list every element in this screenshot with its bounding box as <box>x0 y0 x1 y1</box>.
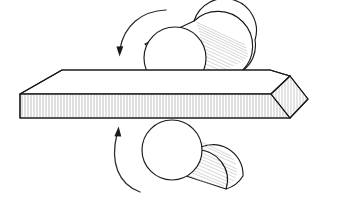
workpiece-slab <box>20 70 308 120</box>
bottom-roll-near-face <box>142 120 202 180</box>
bottom-roll-rotation-arrow-path <box>115 134 140 192</box>
rolling-mill-diagram: Rolling mill process diagram <box>0 0 343 200</box>
bottom-roll-rotation-arrow-head <box>114 127 121 137</box>
top-roll-rotation-arrow-head <box>116 46 123 56</box>
bottom-roll <box>142 120 243 189</box>
slab-front-face <box>20 94 290 118</box>
slab-top-face <box>20 70 290 94</box>
rolling-mill-figure: Rolling mill process diagram <box>0 0 343 200</box>
bottom-roll-rotation-arrow <box>114 127 140 193</box>
